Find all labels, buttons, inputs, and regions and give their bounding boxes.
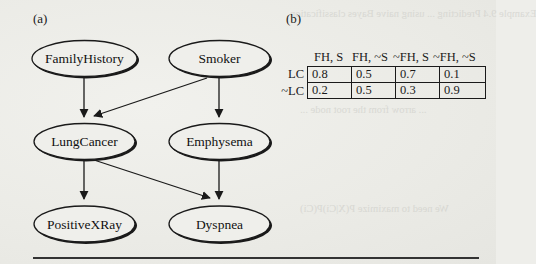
table-cell: 0.1 bbox=[440, 67, 486, 83]
cpt-column-header: ~FH, S bbox=[393, 50, 429, 65]
table-cell: 0.3 bbox=[396, 83, 440, 99]
table-cell: 0.5 bbox=[352, 67, 396, 83]
table-cell: 0.2 bbox=[308, 83, 352, 99]
cpt-column-header: FH, S bbox=[314, 50, 343, 65]
cpt-column-header: ~FH, ~S bbox=[433, 50, 476, 65]
figure-bottom-rule bbox=[33, 257, 479, 259]
table-row: 0.8 0.5 0.7 0.1 bbox=[308, 67, 486, 83]
node-label: PositiveXRay bbox=[47, 217, 122, 232]
edge-lungcancer-dyspnea bbox=[94, 160, 210, 198]
node-smoker: Smoker bbox=[169, 41, 272, 79]
conditional-probability-table: 0.8 0.5 0.7 0.1 0.2 0.5 0.3 0.9 bbox=[307, 66, 486, 99]
cpt-row-label: LC bbox=[280, 67, 304, 82]
node-label: Dyspnea bbox=[196, 217, 243, 232]
table-cell: 0.8 bbox=[308, 67, 352, 83]
node-lungcancer: LungCancer bbox=[34, 124, 137, 162]
node-emphysema: Emphysema bbox=[169, 124, 272, 162]
node-label: FamilyHistory bbox=[45, 51, 124, 66]
cpt-column-header: FH, ~S bbox=[352, 50, 388, 65]
node-familyhistory: FamilyHistory bbox=[32, 41, 139, 79]
edge-smoker-lungcancer bbox=[94, 78, 207, 116]
table-cell: 0.5 bbox=[352, 83, 396, 99]
table-cell: 0.9 bbox=[440, 83, 486, 99]
table-cell: 0.7 bbox=[396, 67, 440, 83]
table-row: 0.2 0.5 0.3 0.9 bbox=[308, 83, 486, 99]
node-label: Emphysema bbox=[186, 134, 253, 149]
node-dyspnea: Dyspnea bbox=[169, 206, 272, 244]
cpt-row-label: ~LC bbox=[280, 84, 304, 99]
node-label: Smoker bbox=[199, 51, 242, 66]
node-positivexray: PositiveXRay bbox=[34, 206, 137, 244]
node-label: LungCancer bbox=[51, 134, 118, 149]
